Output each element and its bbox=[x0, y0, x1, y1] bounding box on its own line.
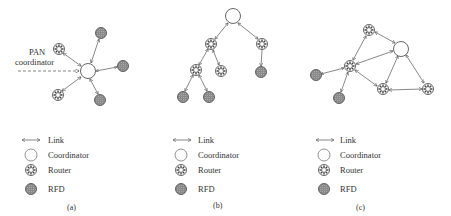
legend-rfd-label: RFD bbox=[48, 184, 65, 194]
rfd-node bbox=[256, 67, 267, 78]
legend-coordinator-label: Coordinator bbox=[340, 150, 381, 160]
rfd-icon bbox=[26, 184, 37, 195]
rfd-node bbox=[95, 95, 106, 106]
network-topology-figure: PAN coordinator Link Coordinator Router … bbox=[0, 0, 451, 216]
rfd-icon bbox=[176, 184, 187, 195]
router-node bbox=[257, 39, 268, 50]
legend-rfd-label: RFD bbox=[340, 184, 357, 194]
router-icon bbox=[176, 165, 187, 176]
coordinator-node bbox=[81, 64, 96, 79]
router-node bbox=[378, 84, 389, 95]
coordinator-label: coordinator bbox=[15, 57, 54, 67]
rfd-node bbox=[178, 92, 189, 103]
rfd-icon bbox=[319, 184, 330, 195]
legend-a: Link Coordinator Router RFD (a) bbox=[22, 135, 89, 212]
legend-coordinator-label: Coordinator bbox=[198, 150, 239, 160]
panel-b-tree-topology: Link Coordinator Router RFD (b) bbox=[173, 9, 268, 211]
links-c bbox=[321, 32, 424, 92]
coordinator-node bbox=[394, 42, 409, 57]
rfd-node bbox=[204, 92, 215, 103]
legend-router-label: Router bbox=[48, 165, 71, 175]
router-node bbox=[216, 66, 227, 77]
pan-label: PAN bbox=[29, 47, 45, 57]
router-node bbox=[206, 39, 217, 50]
legend-coordinator-label: Coordinator bbox=[48, 150, 89, 160]
legend-b: Link Coordinator Router RFD (b) bbox=[173, 135, 239, 210]
legend-router-label: Router bbox=[198, 165, 221, 175]
caption-c: (c) bbox=[356, 203, 365, 212]
legend-link-label: Link bbox=[48, 135, 65, 145]
legend-link-label: Link bbox=[198, 135, 215, 145]
legend-rfd-label: RFD bbox=[198, 184, 215, 194]
links-b bbox=[185, 23, 262, 91]
caption-a: (a) bbox=[67, 203, 76, 212]
router-node bbox=[345, 61, 356, 72]
rfd-node bbox=[311, 70, 322, 81]
router-node bbox=[54, 44, 65, 55]
coordinator-icon bbox=[25, 149, 37, 161]
rfd-node bbox=[118, 61, 129, 72]
legend-link-label: Link bbox=[340, 135, 357, 145]
panel-a-star-topology: PAN coordinator Link Coordinator Router … bbox=[15, 28, 129, 213]
router-icon bbox=[26, 165, 37, 176]
router-icon bbox=[319, 165, 330, 176]
legend-c: Link Coordinator Router RFD (c) bbox=[316, 135, 381, 212]
coordinator-icon bbox=[175, 149, 187, 161]
rfd-node bbox=[334, 93, 345, 104]
router-node bbox=[364, 25, 375, 36]
router-node bbox=[423, 84, 434, 95]
rfd-node bbox=[96, 28, 107, 39]
panel-c-mesh-topology: Link Coordinator Router RFD (c) bbox=[311, 25, 434, 213]
legend-router-label: Router bbox=[340, 165, 363, 175]
router-node bbox=[191, 65, 202, 76]
router-node bbox=[53, 90, 64, 101]
coordinator-icon bbox=[318, 149, 330, 161]
coordinator-node bbox=[226, 9, 241, 24]
caption-b: (b) bbox=[213, 201, 223, 210]
